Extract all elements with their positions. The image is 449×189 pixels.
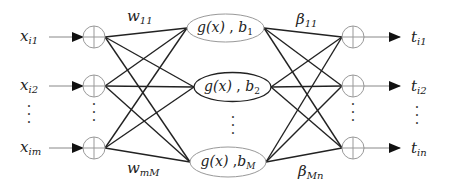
weight-label-beta11: β11 bbox=[296, 12, 317, 29]
hidden-node-2-label: g(x) , b2 bbox=[204, 79, 260, 96]
hidden-node-M-label: g(x) ,bM bbox=[201, 154, 256, 171]
output-label-1: ti1 bbox=[411, 30, 427, 47]
output-label-n: tin bbox=[411, 141, 427, 158]
output-node-ellipsis: ··· bbox=[348, 100, 358, 124]
output-node-1 bbox=[342, 26, 364, 48]
input-ellipsis: ··· bbox=[24, 102, 34, 126]
input-weight-connections bbox=[105, 28, 194, 162]
output-weight-connections bbox=[264, 28, 342, 162]
input-node-1 bbox=[83, 26, 105, 48]
input-nodes bbox=[83, 26, 105, 159]
input-label-1: xi1 bbox=[20, 29, 38, 46]
input-node-m bbox=[83, 137, 105, 159]
output-ellipsis: ··· bbox=[412, 103, 422, 127]
input-label-m: xim bbox=[20, 140, 41, 157]
weight-label-w11: w11 bbox=[127, 9, 153, 26]
hidden-node-ellipsis: ··· bbox=[228, 113, 238, 137]
input-node-ellipsis: ··· bbox=[89, 100, 99, 124]
input-label-2: xi2 bbox=[20, 78, 38, 95]
output-arrows bbox=[364, 37, 400, 148]
hidden-node-1-label: g(x) , b1 bbox=[197, 20, 253, 37]
output-node-n bbox=[342, 137, 364, 159]
neural-network-diagram: xi1 xi2 ··· xim ··· g(x) , b1 g(x) , b2 … bbox=[0, 0, 449, 189]
input-node-2 bbox=[83, 75, 105, 97]
input-arrows bbox=[49, 37, 83, 148]
output-node-2 bbox=[342, 75, 364, 97]
weight-label-betaMn: βMn bbox=[298, 164, 323, 181]
output-label-2: ti2 bbox=[411, 79, 427, 96]
output-nodes bbox=[342, 26, 364, 159]
weight-label-wmM: wmM bbox=[127, 161, 160, 178]
